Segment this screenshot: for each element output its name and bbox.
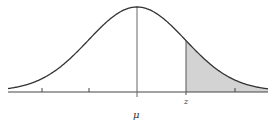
z-label: z bbox=[183, 97, 189, 106]
normal-curve-diagram: μ z bbox=[0, 0, 273, 124]
mean-label: μ bbox=[133, 109, 140, 120]
shaded-tail-area bbox=[186, 41, 268, 92]
bell-curve bbox=[8, 7, 268, 89]
